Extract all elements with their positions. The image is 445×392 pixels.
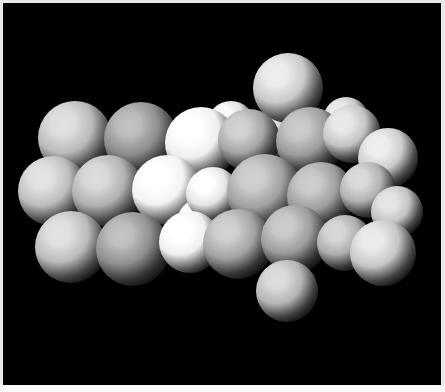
atom-specular-highlight <box>267 68 288 85</box>
atom-sphere <box>350 220 416 286</box>
atom-specular-highlight <box>197 178 213 191</box>
atom-specular-highlight <box>370 141 388 155</box>
atom-specular-highlight <box>171 224 190 239</box>
atom-specular-highlight <box>268 273 287 288</box>
atom-specular-highlight <box>146 170 167 187</box>
atom-specular-highlight <box>242 170 265 188</box>
atom-specular-highlight <box>53 117 75 135</box>
atom-specular-highlight <box>328 227 345 240</box>
atom-sphere <box>256 260 318 322</box>
render-canvas <box>3 3 441 385</box>
atom-specular-highlight <box>179 122 201 139</box>
atom-specular-highlight <box>230 122 249 137</box>
atom-specular-highlight <box>301 176 321 192</box>
frame-edge-right <box>441 0 445 392</box>
atom-specular-highlight <box>290 121 310 137</box>
atom-specular-highlight <box>86 170 108 187</box>
atom-specular-highlight <box>381 197 397 209</box>
atom-sphere <box>96 212 170 286</box>
atom-specular-highlight <box>49 226 71 243</box>
atom-specular-highlight <box>119 118 141 136</box>
screenshot-stage <box>0 0 445 392</box>
frame-edge-bottom <box>0 385 445 392</box>
frame-edge-top <box>0 0 445 3</box>
atom-specular-highlight <box>335 117 352 131</box>
atom-specular-highlight <box>32 171 53 188</box>
atom-specular-highlight <box>275 219 295 235</box>
atom-specular-highlight <box>363 234 383 250</box>
atom-specular-highlight <box>217 224 238 241</box>
atom-specular-highlight <box>111 228 133 246</box>
atom-specular-highlight <box>351 174 368 187</box>
molecule-scene <box>3 3 441 385</box>
frame-edge-left <box>0 0 3 392</box>
